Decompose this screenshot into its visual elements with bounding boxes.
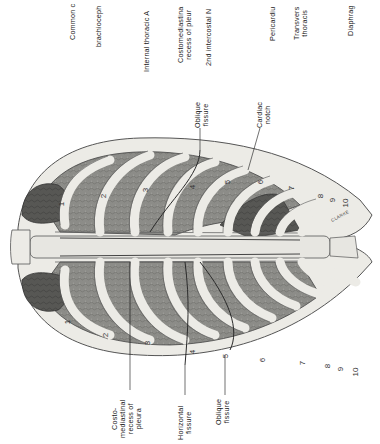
rib-number: 10 [351, 367, 360, 376]
rib-number: 10 [341, 198, 350, 207]
label-oblique-fissure-upper: Oblique fissure [194, 102, 210, 128]
label-2nd-intercostal-nerve: 2nd intercostal N [205, 9, 213, 66]
rib-number: 4 [188, 184, 197, 189]
label-diaphragm: Diaphrag [347, 5, 355, 36]
rib-number: 1 [63, 319, 72, 324]
rib-number: 1 [57, 201, 66, 206]
rib-number: 3 [141, 187, 150, 192]
label-common-carotid: Common c [69, 4, 77, 40]
label-transversus-thoracis: Transvers thoracis [293, 7, 309, 40]
label-brachiocephalic: brachioceph [95, 6, 103, 47]
rib-number: 2 [99, 193, 108, 198]
rib-number: 6 [258, 357, 267, 362]
label-cardiac-notch: Cardiac notch [256, 102, 272, 128]
rib-number: 5 [221, 353, 230, 358]
rib-number: 9 [336, 366, 345, 371]
rib-number: 3 [143, 340, 152, 345]
label-internal-thoracic: Internal thoracic A [143, 11, 151, 72]
manubrium [11, 230, 31, 264]
xiphoid [330, 236, 358, 258]
rib-number: 8 [316, 193, 325, 198]
label-costomediastinal-recess-lower: Costo- mediastinal recess of pleura [111, 399, 143, 438]
rib-number: 7 [298, 360, 307, 365]
rib-number: 8 [323, 363, 332, 368]
rib-number: 5 [223, 179, 232, 184]
rib-number: 2 [101, 332, 110, 337]
label-pericardium: Pericardiu [269, 7, 277, 41]
label-oblique-fissure-lower: Oblique fissure [215, 399, 231, 425]
label-costomediastinal-recess-upper: Costomediastina recess of pleur [177, 6, 193, 63]
rib-number: 6 [256, 179, 265, 184]
label-horizontal-fissure: Horizontal fissure [177, 406, 193, 440]
rib-number: 7 [287, 185, 296, 190]
rib-number: 9 [328, 197, 337, 202]
thorax-diagram: 1 2 3 4 5 6 7 8 9 10 1 2 3 4 5 6 7 8 9 1… [0, 0, 380, 444]
rib-cage [11, 138, 373, 365]
rib-number: 4 [188, 349, 197, 354]
